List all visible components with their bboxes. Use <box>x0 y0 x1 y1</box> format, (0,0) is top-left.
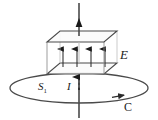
loop-circulation-arrow <box>112 95 124 97</box>
diagram-canvas <box>0 0 158 120</box>
wire-upper-arrowhead <box>76 18 83 27</box>
surface-s1-subscript: 1 <box>44 87 47 94</box>
capacitor-ampere-loop-diagram: E S1 I C <box>0 0 158 120</box>
surface-s1-label: S1 <box>38 81 47 95</box>
loop-c-label: C <box>124 101 132 113</box>
electric-field-label: E <box>120 48 128 61</box>
current-label: I <box>67 81 71 92</box>
capacitor-top-plate <box>47 31 117 42</box>
capacitor-bottom-plate <box>47 63 117 74</box>
